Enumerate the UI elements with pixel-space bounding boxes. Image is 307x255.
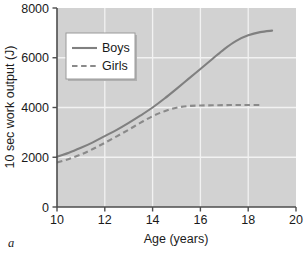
x-axis-tick-labels: 101214161820 [50,213,303,227]
y-tick-label: 8000 [21,2,49,16]
panel-label: a [8,236,14,250]
x-tick-label: 10 [50,213,64,227]
x-tick-label: 12 [98,213,112,227]
y-tick-label: 0 [42,201,49,215]
y-tick-label: 4000 [21,101,49,115]
y-tick-label: 2000 [21,151,49,165]
legend-label-girls: Girls [102,59,128,73]
y-tick-label: 6000 [21,51,49,65]
x-tick-label: 18 [241,213,255,227]
y-axis-tick-labels: 02000400060008000 [21,2,49,215]
line-chart: 101214161820 02000400060008000 Age (year… [0,0,307,255]
figure-panel-a: 101214161820 02000400060008000 Age (year… [0,0,307,255]
chart-legend: Boys Girls [66,33,137,81]
legend-label-boys: Boys [102,41,130,55]
y-axis-title: 10 sec work output (J) [3,46,17,169]
x-tick-label: 14 [146,213,160,227]
x-axis-title: Age (years) [144,232,209,246]
x-tick-label: 20 [289,213,303,227]
x-tick-label: 16 [193,213,207,227]
